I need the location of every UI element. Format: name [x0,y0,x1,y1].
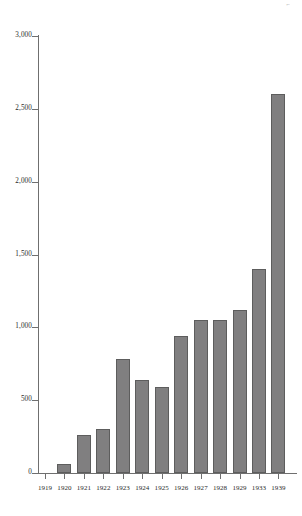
y-axis-tick [32,36,39,37]
y-axis-tick-label: 0 [0,469,32,476]
x-axis-tick [142,473,143,479]
y-axis-tick-label: 3,000 [0,32,32,39]
x-axis-tick-label: 1939 [267,484,289,492]
y-axis-tick-label: 2,500 [0,105,32,112]
x-axis-tick [123,473,124,479]
bar-1924 [135,380,149,473]
x-axis-tick [162,473,163,479]
bar-1923 [116,359,130,473]
x-axis-tick [64,473,65,479]
bar-1925 [155,387,169,473]
bar-1929 [233,310,247,473]
bar-chart-plot-area: 05001,0001,5002,0002,5003,00019191920192… [0,0,302,516]
x-axis-tick [240,473,241,479]
bar-1921 [77,435,91,473]
y-axis-tick-label: 1,500 [0,251,32,258]
y-axis-tick [32,327,39,328]
x-axis-tick [45,473,46,479]
x-axis-tick [259,473,260,479]
bar-1926 [174,336,188,473]
y-axis-tick [32,109,39,110]
y-axis-tick [32,473,39,474]
bar-1920 [57,464,71,473]
y-axis-tick [32,400,39,401]
x-axis-tick [181,473,182,479]
x-axis-tick [278,473,279,479]
y-axis-tick-label: 1,000 [0,323,32,330]
y-axis-tick-label: 500 [0,396,32,403]
y-axis-tick [32,255,39,256]
bar-1928 [213,320,227,473]
x-axis-tick [84,473,85,479]
bar-1939 [271,94,285,473]
bar-1922 [96,429,110,473]
x-axis-tick [220,473,221,479]
chart-page: ⌐ 05001,0001,5002,0002,5003,000191919201… [0,0,302,516]
bar-1933 [252,269,266,473]
y-axis-tick-label: 2,000 [0,178,32,185]
bar-1927 [194,320,208,473]
x-axis-tick [201,473,202,479]
y-axis-tick [32,182,39,183]
x-axis-tick [103,473,104,479]
